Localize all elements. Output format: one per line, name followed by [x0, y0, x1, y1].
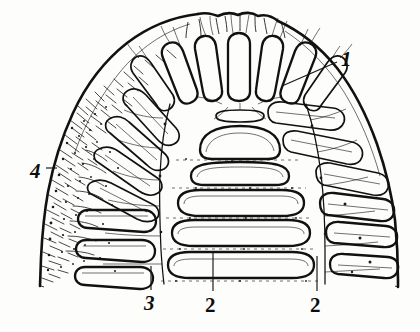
callout-2-right: 2 — [310, 256, 321, 317]
callout-4-label: 4 — [29, 159, 41, 183]
apex-radiating-cavities — [127, 15, 352, 111]
callout-1-label: 1 — [341, 47, 352, 71]
central-column-chambers — [168, 110, 314, 278]
cortex-hatching-left — [42, 50, 176, 282]
left-lateral-cavities — [75, 89, 179, 289]
cross-section-illustration: 1 4 3 2 2 — [0, 0, 420, 332]
callout-2-right-label: 2 — [310, 293, 321, 317]
callout-2-center-label: 2 — [205, 293, 216, 317]
callout-2-center: 2 — [205, 253, 216, 317]
figure-container: 1 4 3 2 2 — [0, 0, 420, 332]
callout-3-label: 3 — [143, 291, 155, 315]
